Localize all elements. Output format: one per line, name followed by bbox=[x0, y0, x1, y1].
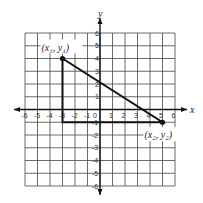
x-tick-label: 3 bbox=[134, 112, 138, 119]
y-tick-label: 5 bbox=[95, 42, 99, 49]
x-axis-arrow-right-icon bbox=[181, 107, 187, 112]
x-tick-label: 2 bbox=[122, 112, 126, 119]
y-tick-label: -4 bbox=[92, 157, 98, 164]
x-tick-label: 5 bbox=[159, 112, 163, 119]
y-axis-arrow-down-icon bbox=[98, 189, 103, 195]
y-tick-label: -6 bbox=[92, 183, 98, 190]
y-tick-label: 1 bbox=[95, 93, 99, 100]
y-tick-label: 3 bbox=[95, 68, 99, 75]
y-axis-label: y bbox=[97, 8, 103, 19]
point-label-1: (x₁, y₁) bbox=[42, 42, 70, 54]
point-label-2: (x₂, y₂) bbox=[145, 129, 173, 141]
y-tick-label: -2 bbox=[92, 132, 98, 139]
x-tick-label: -6 bbox=[22, 112, 28, 119]
x-tick-label: -1 bbox=[84, 112, 90, 119]
y-tick-label: -3 bbox=[92, 144, 98, 151]
x-tick-label: 0 bbox=[93, 112, 97, 119]
y-tick-label: 4 bbox=[95, 55, 99, 62]
x-tick-label: -4 bbox=[47, 112, 53, 119]
x-tick-label: -2 bbox=[72, 112, 78, 119]
axes: xy bbox=[14, 8, 195, 195]
point-marker bbox=[60, 56, 65, 61]
x-tick-label: -5 bbox=[34, 112, 40, 119]
coordinate-plane: xy -6-5-4-3-2-10123456654321-1-2-3-4-5-6… bbox=[0, 0, 203, 203]
x-axis-arrow-left-icon bbox=[14, 107, 20, 112]
y-tick-label: -5 bbox=[92, 170, 98, 177]
y-tick-label: 6 bbox=[95, 30, 99, 37]
point-marker bbox=[160, 120, 165, 125]
x-axis-label: x bbox=[189, 104, 195, 115]
x-tick-label: 1 bbox=[109, 112, 113, 119]
x-tick-label: 6 bbox=[172, 112, 176, 119]
